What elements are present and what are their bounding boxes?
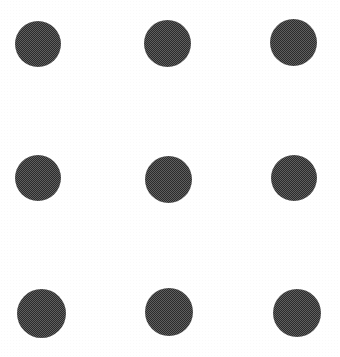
dot-r3c2	[145, 288, 193, 336]
dot-r1c1	[15, 21, 61, 67]
dot-r2c3	[271, 155, 317, 201]
dot-r2c1	[15, 155, 61, 201]
dot-r2c2	[145, 156, 192, 203]
dot-r1c3	[270, 19, 317, 66]
dot-r1c2	[144, 20, 191, 67]
dot-r3c1	[17, 289, 66, 338]
dot-r3c3	[273, 289, 321, 337]
dot-grid-canvas	[0, 0, 340, 357]
